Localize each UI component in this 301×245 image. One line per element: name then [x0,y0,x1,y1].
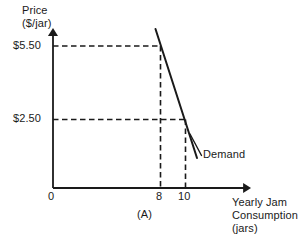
y-axis-title-line1: Price [22,4,48,16]
origin-label: 0 [48,190,54,203]
y-axis-title-line2: ($/jar) [22,17,51,29]
x-axis-title: Yearly JamConsumption(jars) [232,196,298,235]
panel-label: (A) [137,208,152,221]
y-axis-title: Price($/jar) [22,4,51,30]
demand-curve-figure: Price($/jar) Yearly JamConsumption(jars)… [0,0,301,245]
x-axis-title-line1: Yearly Jam [232,196,287,208]
x-tick-label-8: 8 [156,190,162,203]
x-axis-title-line2: Consumption [232,209,298,221]
demand-curve-line [156,29,198,158]
x-tick-label-10: 10 [178,190,190,203]
y-tick-label-250: $2.50 [13,112,41,125]
x-axis-title-line3: (jars) [232,222,258,234]
demand-series-label: Demand [203,148,245,161]
y-tick-label-550: $5.50 [13,39,41,52]
